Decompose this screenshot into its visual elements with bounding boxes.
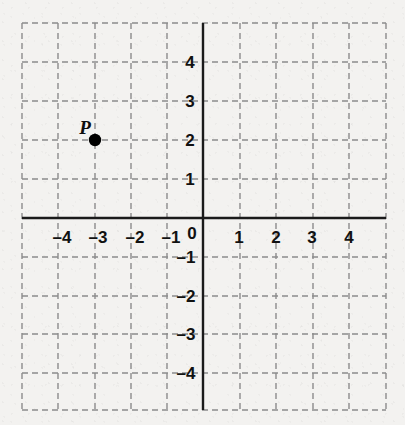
y-tick-label-minus3: –3 [177, 326, 196, 343]
y-tick-label-1: 1 [185, 171, 194, 188]
x-tick-label-minus4: –4 [53, 229, 72, 246]
y-tick-label-4: 4 [185, 54, 194, 71]
y-tick-label-minus1: –1 [177, 249, 196, 266]
y-tick-label-minus2: –2 [177, 288, 196, 305]
y-tick-label-2: 2 [185, 132, 194, 149]
x-tick-label-minus2: –2 [126, 229, 145, 246]
y-tick-label-3: 3 [185, 93, 194, 110]
x-tick-label-4: 4 [344, 229, 353, 246]
point-label-P: P [79, 118, 91, 137]
y-tick-label-minus4: –4 [177, 365, 196, 382]
x-tick-label-2: 2 [271, 229, 280, 246]
x-tick-label-minus1: –1 [162, 229, 181, 246]
x-tick-label-minus3: –3 [89, 229, 108, 246]
x-tick-label-3: 3 [307, 229, 316, 246]
x-tick-label-1: 1 [234, 229, 243, 246]
plot-canvas [0, 0, 405, 425]
coordinate-plane-figure: –4 –3 –2 –1 1 2 3 4 0 4 3 2 1 –1 –2 –3 –… [0, 0, 405, 425]
origin-label: 0 [187, 225, 196, 242]
